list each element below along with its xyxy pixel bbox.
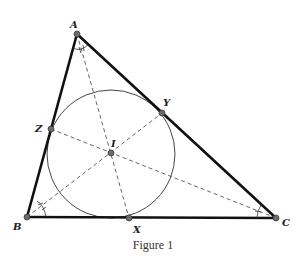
label-i: I [110,138,116,149]
point-x [126,215,132,221]
point-z [48,126,54,132]
label-y: Y [163,97,171,108]
point-i-incenter [108,150,114,156]
point-b [24,214,30,220]
label-b: B [12,221,21,232]
side-ca [77,34,276,218]
label-c: C [282,217,290,228]
figure-caption: Figure 1 [0,238,306,253]
incircle-diagram: A B C I X Y Z [0,0,306,260]
point-a [74,31,80,37]
label-z: Z [34,123,43,134]
side-bc [27,217,276,218]
point-y [159,110,165,116]
bisector-a-to-x [77,34,129,218]
point-c [273,215,279,221]
angle-mark-c [255,205,261,218]
angle-mark-a [73,45,88,53]
label-x: X [132,224,142,235]
label-a: A [69,19,78,30]
bisector-c-to-z [51,129,276,218]
bisector-b-to-y [27,113,162,217]
